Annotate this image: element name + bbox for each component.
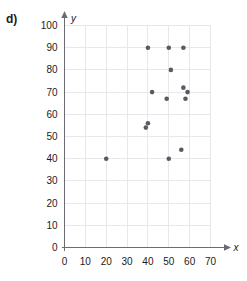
tick-marks (62, 245, 68, 251)
y-tick-label: 20 (46, 198, 58, 209)
y-tick-label: 0 (52, 242, 58, 253)
data-points (104, 45, 190, 161)
scatter-plot-canvas: 010203040506070 0102030405060708090100 x… (0, 0, 247, 281)
data-point (166, 45, 171, 50)
y-tick-label: 40 (46, 153, 58, 164)
data-point (181, 45, 186, 50)
data-point (169, 68, 174, 73)
y-axis-arrow (61, 11, 67, 18)
data-point (181, 85, 186, 90)
data-point (146, 45, 151, 50)
y-tick-label: 70 (46, 87, 58, 98)
y-tick-label: 30 (46, 175, 58, 186)
data-point (164, 96, 169, 101)
x-tick-label: 50 (163, 256, 175, 267)
y-tick-label: 60 (46, 109, 58, 120)
x-axis-title: x (233, 242, 240, 253)
y-tick-label: 50 (46, 131, 58, 142)
data-point (144, 125, 149, 130)
data-point (104, 156, 109, 161)
x-tick-label: 40 (142, 256, 154, 267)
grid-lines (65, 26, 211, 248)
data-point (185, 90, 190, 95)
y-tick-label: 80 (46, 64, 58, 75)
x-tick-label: 10 (80, 256, 92, 267)
x-axis-tick-labels: 010203040506070 (62, 256, 217, 267)
x-tick-label: 0 (62, 256, 68, 267)
y-axis-title: y (70, 13, 77, 24)
y-tick-label: 90 (46, 42, 58, 53)
x-tick-label: 30 (122, 256, 134, 267)
data-point (179, 148, 184, 153)
axis-titles: xy (70, 13, 240, 253)
y-axis-tick-labels: 0102030405060708090100 (41, 20, 58, 253)
data-point (166, 156, 171, 161)
scatter-plot-figure: d) 010203040506070 010203040506070809010… (0, 0, 247, 281)
data-point (150, 90, 155, 95)
x-axis-arrow (224, 244, 231, 250)
y-tick-label: 100 (41, 20, 58, 31)
data-point (146, 121, 151, 126)
x-tick-label: 20 (101, 256, 113, 267)
x-tick-label: 70 (205, 256, 217, 267)
y-tick-label: 10 (46, 220, 58, 231)
x-tick-label: 60 (184, 256, 196, 267)
data-point (183, 96, 188, 101)
